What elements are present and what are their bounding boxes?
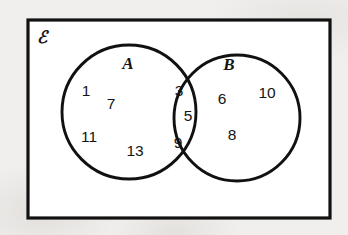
element-b-only-10: 10 bbox=[258, 84, 276, 101]
venn-diagram-canvas: ℰ A B 1 7 11 13 3 5 9 6 10 8 bbox=[0, 0, 348, 235]
element-b-only-8: 8 bbox=[228, 126, 237, 143]
element-a-only-13: 13 bbox=[126, 142, 143, 159]
element-intersection-3: 3 bbox=[175, 82, 184, 99]
element-a-only-7: 7 bbox=[107, 95, 116, 112]
element-a-only-1: 1 bbox=[82, 82, 91, 99]
universal-set-rectangle bbox=[28, 20, 330, 218]
set-a-label: A bbox=[121, 54, 133, 73]
element-intersection-5: 5 bbox=[184, 107, 193, 124]
element-a-only-11: 11 bbox=[81, 128, 97, 145]
element-intersection-9: 9 bbox=[174, 134, 183, 151]
venn-diagram-figure: ℰ A B 1 7 11 13 3 5 9 6 10 8 bbox=[0, 0, 348, 235]
set-b-label: B bbox=[222, 55, 234, 74]
element-b-only-6: 6 bbox=[218, 90, 227, 107]
